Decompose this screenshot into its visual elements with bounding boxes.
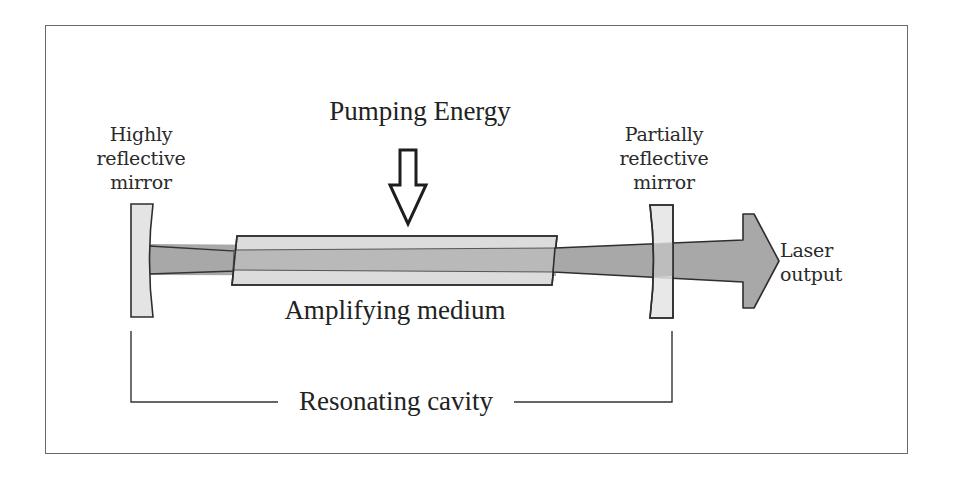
label-line: mirror xyxy=(608,170,720,194)
label-line: mirror xyxy=(88,170,194,194)
resonating-cavity-label: Resonating cavity xyxy=(278,388,514,415)
highly-reflective-mirror-label: Highly reflective mirror xyxy=(88,122,194,194)
label-line: reflective xyxy=(608,146,720,170)
label-line: reflective xyxy=(88,146,194,170)
highly-reflective-mirror xyxy=(131,204,153,317)
pumping-energy-label: Pumping Energy xyxy=(300,98,540,125)
laser-diagram: Pumping Energy Highly reflective mirror … xyxy=(0,0,953,482)
beam-left-segment xyxy=(149,246,236,274)
partially-reflective-mirror-label: Partially reflective mirror xyxy=(608,122,720,194)
label-line: output xyxy=(780,262,856,286)
beam-in-medium xyxy=(233,248,555,272)
label-line: Laser xyxy=(780,238,856,262)
pumping-arrow-icon xyxy=(390,150,426,224)
label-line: Highly xyxy=(88,122,194,146)
label-line: Partially xyxy=(608,122,720,146)
laser-output-label: Laser output xyxy=(780,238,856,286)
amplifying-medium-label: Amplifying medium xyxy=(255,297,535,324)
